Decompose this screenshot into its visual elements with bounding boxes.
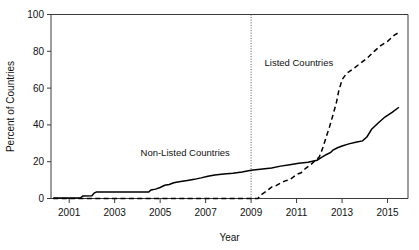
annotation-non-listed-countries: Non-Listed Countries <box>141 147 230 158</box>
y-tick-label: 0 <box>38 193 44 204</box>
x-tick-label: 2013 <box>331 207 354 218</box>
chart-svg: 0204060801002001200320052007200920112013… <box>0 0 419 250</box>
y-tick-label: 100 <box>27 9 44 20</box>
x-tick-label: 2003 <box>104 207 127 218</box>
x-tick-label: 2011 <box>286 207 308 218</box>
x-tick-label: 2015 <box>376 207 399 218</box>
y-axis-title: Percent of Countries <box>5 61 16 152</box>
chart-figure: 0204060801002001200320052007200920112013… <box>0 0 419 250</box>
x-tick-label: 2001 <box>58 207 81 218</box>
x-tick-label: 2005 <box>149 207 172 218</box>
x-tick-label: 2007 <box>194 207 217 218</box>
y-tick-label: 60 <box>33 83 45 94</box>
plot-frame <box>51 15 408 199</box>
y-tick-label: 40 <box>33 119 45 130</box>
annotation-listed-countries: Listed Countries <box>265 57 334 68</box>
x-tick-label: 2009 <box>240 207 263 218</box>
y-tick-label: 80 <box>33 46 45 57</box>
y-tick-label: 20 <box>33 156 45 167</box>
x-axis-title: Year <box>219 232 240 243</box>
